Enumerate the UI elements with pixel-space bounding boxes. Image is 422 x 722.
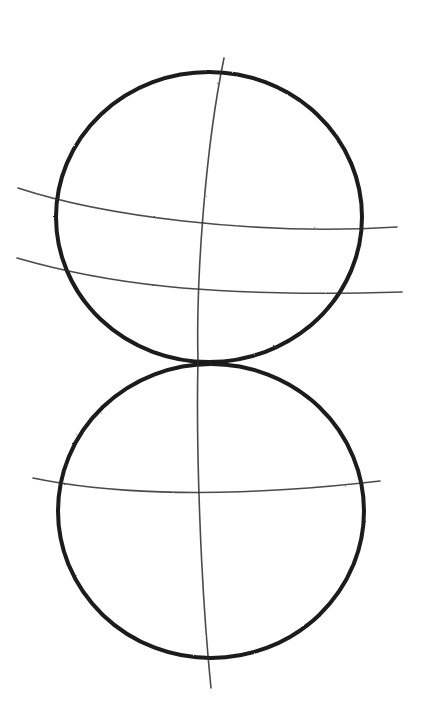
bottom-horizontal-guide [33, 478, 380, 492]
top-circle [56, 72, 362, 362]
bottom-circle [58, 364, 364, 658]
sketch-drawing [0, 0, 422, 722]
sketch-canvas [0, 0, 422, 722]
top-horizontal-guide-1 [18, 188, 397, 229]
vertical-center-guide [198, 58, 224, 688]
